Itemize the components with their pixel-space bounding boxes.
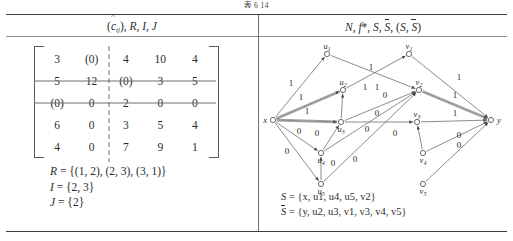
graph-node-v2: [416, 87, 421, 92]
edge-flow-label: 0: [375, 108, 380, 118]
set-I-line: I = {2, 3}: [50, 180, 167, 196]
set-Sbar-label: S: [281, 204, 286, 219]
graph-node-label-u1: u1: [323, 41, 330, 52]
matrix-cell: 0: [74, 114, 108, 136]
edge-flow-label: 0: [365, 124, 370, 134]
left-column-header: (cij), R, I, J: [6, 18, 258, 34]
matrix-cell: 4: [178, 48, 212, 70]
table-row: 6 0 3 5 4: [40, 114, 212, 136]
matrix-cell: 6: [40, 114, 74, 136]
figure-caption: 表 6 14: [0, 0, 513, 8]
set-S-label: S: [281, 191, 286, 202]
matrix-cell: 5: [40, 70, 74, 92]
graph-node-label-v1: v1: [406, 41, 413, 52]
matrix-cell: 4: [178, 114, 212, 136]
matrix-cell: (0): [74, 48, 108, 70]
edge-flow-label: 1: [369, 62, 374, 72]
matrix-cell: (0): [40, 92, 74, 114]
matrix-cell: 0: [74, 136, 108, 158]
edge-flow-label: 1: [305, 106, 310, 116]
matrix-cell: 7: [109, 136, 143, 158]
graph-node-u1: [324, 51, 329, 56]
table-bottom-rule: [6, 231, 507, 232]
edge-flow-label: 0: [383, 90, 388, 100]
graph-node-y: [488, 117, 493, 122]
graph-edge: [324, 92, 416, 151]
edge-flow-label: 0: [285, 146, 290, 156]
matrix-cell: 2: [109, 92, 143, 114]
set-Sbar-line: S = {y, u2, u3, v1, v3, v4, v5}: [281, 204, 407, 219]
graph-edge: [324, 93, 417, 182]
network-flow-graph: 11100111000000111000 xyu1u2u3u4u5v1v2v3v…: [259, 38, 507, 203]
edge-flow-label: 1: [453, 90, 458, 100]
left-sets: R = {(1, 2), (2, 3), (3, 1)} I = {2, 3} …: [50, 164, 167, 211]
left-cell: 3 (0) 4 10 4 5 12 (0) 3 5 (0) 0 2 0 0: [6, 40, 258, 230]
cost-matrix: 3 (0) 4 10 4 5 12 (0) 3 5 (0) 0 2 0 0: [40, 48, 212, 158]
matrix-cell: 0: [74, 92, 108, 114]
matrix-cell: 12: [74, 70, 108, 92]
matrix-cell: 10: [143, 48, 177, 70]
right-column-header: N, f*, S, S, (S, S): [259, 18, 507, 34]
graph-node-u2: [340, 87, 345, 92]
graph-edge: [418, 126, 423, 150]
edge-flow-label: 1: [457, 72, 462, 82]
matrix-cell: 9: [143, 136, 177, 158]
matrix-cell: 3: [109, 114, 143, 136]
matrix-cell: 1: [178, 136, 212, 158]
set-S-line: S = {x, u1, u4, u5, v2}: [281, 190, 407, 204]
right-cell: 11100111000000111000 xyu1u2u3u4u5v1v2v3v…: [259, 38, 507, 230]
set-J-label: J: [50, 196, 55, 208]
graph-node-v3: [414, 119, 419, 124]
table-row: 4 0 7 9 1: [40, 136, 212, 158]
edge-flow-label: 0: [297, 126, 302, 136]
graph-node-label-v5: v5: [420, 186, 427, 197]
matrix-cell: 0: [178, 92, 212, 114]
equals-sign: =: [289, 206, 295, 217]
equals-sign: =: [289, 191, 295, 202]
edge-flow-label: 0: [315, 128, 320, 138]
figure-root: 表 6 14 (cij), R, I, J N, f*, S, S, (S, S…: [0, 0, 513, 241]
matrix-cell: 3: [40, 48, 74, 70]
matrix-cell: 3: [143, 70, 177, 92]
edge-flow-label: 1: [375, 82, 380, 92]
graph-node-label-v4: v4: [420, 155, 427, 166]
graph-edge: [421, 120, 487, 122]
graph-edge: [412, 56, 488, 117]
equals-sign: =: [60, 165, 67, 177]
graph-node-label-u3: u3: [337, 124, 344, 135]
graph-node-x: [270, 117, 275, 122]
matrix-cell: 5: [178, 70, 212, 92]
set-I-label: I: [50, 181, 54, 193]
matrix-cell: 4: [109, 48, 143, 70]
edge-flow-label: 1: [299, 92, 304, 102]
graph-node-label-v3: v3: [414, 109, 421, 120]
table-top-rule: [6, 14, 507, 15]
graph-node-label-y: y: [496, 115, 501, 125]
equals-sign: =: [58, 196, 65, 208]
set-R-line: R = {(1, 2), (2, 3), (3, 1)}: [50, 164, 167, 180]
graph-node-label-u2: u2: [339, 77, 346, 88]
set-S-value: {x, u1, u4, u5, v2}: [297, 191, 375, 202]
set-R-label: R: [50, 165, 57, 177]
right-sets: S = {x, u1, u4, u5, v2} S = {y, u2, u3, …: [281, 190, 407, 219]
edge-flow-label: 1: [363, 82, 368, 92]
graph-node-label-v2: v2: [416, 77, 423, 88]
graph-edge: [275, 57, 324, 117]
set-J-value: {2}: [67, 196, 84, 208]
edge-flow-label: 1: [289, 78, 294, 88]
graph-node-v1: [406, 51, 411, 56]
graph-edge: [341, 94, 343, 118]
graph-node-label-x: x: [262, 115, 267, 125]
edge-flow-label: 0: [457, 130, 462, 140]
set-I-value: {2, 3}: [66, 181, 94, 193]
matrix-cell: (0): [109, 70, 143, 92]
edge-flow-label: 0: [457, 140, 462, 150]
table-row: 5 12 (0) 3 5: [40, 70, 212, 92]
set-R-value: {(1, 2), (2, 3), (3, 1)}: [69, 165, 166, 177]
set-Sbar-value: {y, u2, u3, v1, v3, v4, v5}: [297, 206, 406, 217]
matrix-cell: 5: [143, 114, 177, 136]
edge-flow-label: 1: [453, 108, 458, 118]
edge-flow-label: 0: [393, 128, 398, 138]
matrix-cell: 4: [40, 136, 74, 158]
matrix-cell: 0: [143, 92, 177, 114]
